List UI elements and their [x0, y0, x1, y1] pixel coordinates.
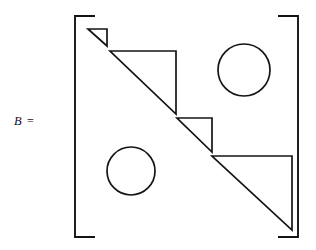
circle-block-upper-right — [218, 44, 270, 96]
triangle-block-4 — [212, 156, 292, 230]
matrix-figure: B = — [0, 0, 316, 250]
triangle-block-3 — [177, 118, 212, 152]
matrix-body — [0, 0, 316, 250]
triangle-block-1 — [88, 29, 107, 46]
right-square-bracket-icon — [278, 16, 298, 237]
circle-block-lower-left — [107, 147, 155, 195]
left-square-bracket-icon — [75, 16, 95, 237]
triangle-block-2 — [110, 51, 176, 114]
